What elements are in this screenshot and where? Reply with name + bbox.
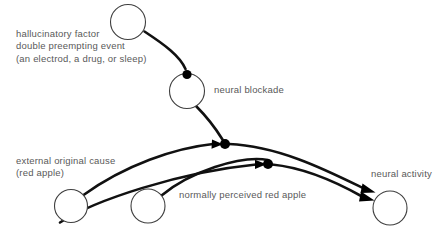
hallucinatory-factor-label: hallucinatory factor double preempting e…: [16, 28, 147, 65]
normally-perceived-red-apple-label: normally perceived red apple: [179, 189, 306, 201]
external-original-cause-node[interactable]: [55, 190, 88, 223]
arrowhead-lower-junction-to-neural-activity: [359, 192, 375, 202]
normally-perceived-node[interactable]: [131, 189, 165, 223]
lower-junction: [263, 159, 273, 169]
edge-blockade-to-upper-junction: [196, 106, 223, 140]
neural-blockade-label: neural blockade: [214, 84, 284, 96]
arrowhead-upper-junction-to-neural-activity: [361, 184, 376, 194]
upper-junction: [220, 139, 230, 149]
neural-activity-node[interactable]: [373, 191, 407, 225]
edge-hallucinatory-to-blockade: [145, 32, 186, 70]
diagram-canvas: hallucinatory factor double preempting e…: [0, 0, 446, 235]
blockade-top-junction: [182, 70, 191, 79]
external-original-cause-label: external original cause (red apple): [16, 155, 115, 180]
neural-activity-label: neural activity: [371, 168, 432, 180]
